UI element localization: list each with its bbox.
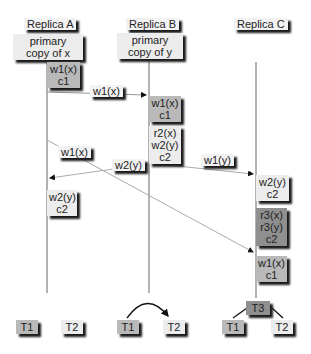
op-line: w1(x): [49, 63, 78, 75]
graph-c-t3: T3: [246, 301, 270, 315]
op-line: c2: [151, 151, 179, 163]
graph-c-t2: T2: [271, 320, 293, 334]
primary-label: primary: [15, 35, 81, 47]
op-b-w1-c1: w1(x) c1: [149, 96, 181, 122]
op-line: w1(x): [151, 97, 179, 109]
edge-b-t1-t2: [127, 303, 168, 318]
op-line: c1: [151, 109, 179, 121]
primary-label: primary: [119, 34, 181, 46]
message-label-a-to-c: w1(x): [58, 146, 91, 158]
op-line: c2: [49, 203, 75, 215]
op-line: r2(x): [151, 127, 179, 139]
op-a-w2-c2: w2(y) c2: [47, 190, 77, 216]
op-line: c2: [258, 233, 285, 245]
edge-c-t3-t2: [272, 308, 283, 318]
message-label-b-to-a: w2(y): [112, 159, 145, 171]
message-label-a-to-b: w1(x): [90, 85, 123, 97]
replica-b-primary-box: primary copy of y: [117, 33, 183, 59]
replica-a-primary-box: primary copy of x: [13, 34, 83, 60]
op-line: w2(y): [49, 191, 75, 203]
op-a-w1-c1: w1(x) c1: [47, 62, 80, 88]
graph-b-t2: T2: [163, 320, 185, 334]
op-b-r2-w2-c2: r2(x) w2(y) c2: [149, 126, 181, 164]
replica-a-label: Replica A: [24, 18, 76, 30]
graph-c-t1: T1: [222, 320, 244, 334]
op-line: r3(y): [258, 221, 285, 233]
op-line: c1: [49, 75, 78, 87]
replica-c-label: Replica C: [234, 18, 288, 30]
edge-c-t3-t1: [233, 308, 247, 318]
op-line: w2(y): [151, 139, 179, 151]
graph-a-t2: T2: [61, 320, 83, 334]
op-c-r3-c2: r3(x) r3(y) c2: [256, 208, 287, 246]
op-line: r3(x): [258, 209, 285, 221]
op-line: w2(y): [258, 176, 287, 188]
op-line: c1: [258, 269, 285, 281]
op-line: w1(x): [258, 257, 285, 269]
primary-copy-label: copy of y: [119, 46, 181, 58]
graph-a-t1: T1: [16, 320, 38, 334]
message-label-b-to-c: w1(y): [201, 154, 234, 166]
graph-b-t1: T1: [117, 320, 139, 334]
op-c-w2-c2: w2(y) c2: [256, 175, 289, 201]
primary-copy-label: copy of x: [15, 47, 81, 59]
op-c-w1-c1: w1(x) c1: [256, 256, 287, 282]
replica-b-label: Replica B: [126, 18, 179, 30]
op-line: c2: [258, 188, 287, 200]
